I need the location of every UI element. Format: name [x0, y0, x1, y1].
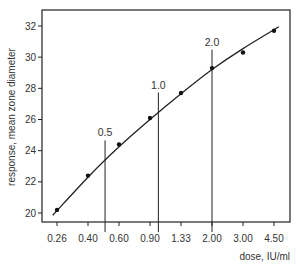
- data-point: [179, 91, 183, 95]
- y-axis-title: response, mean zone diameter: [6, 47, 17, 186]
- x-tick-label: 2.00: [202, 233, 222, 244]
- reference-line-label: 1.0: [151, 79, 166, 91]
- x-tick-label: 1.33: [171, 233, 191, 244]
- reference-line-label: 2.0: [205, 36, 220, 48]
- data-point: [272, 28, 276, 32]
- x-tick-label: 0.90: [140, 233, 160, 244]
- x-tick-label: 3.00: [233, 233, 253, 244]
- reference-line-label: 0.5: [98, 126, 113, 138]
- x-axis: 0.260.400.600.901.332.003.004.50: [47, 222, 284, 244]
- reference-lines: 0.51.02.0: [98, 36, 220, 232]
- data-point: [55, 208, 59, 212]
- dose-response-chart: 20222426283032 0.260.400.600.901.332.003…: [0, 0, 298, 268]
- y-tick-label: 22: [25, 176, 37, 187]
- y-tick-label: 30: [25, 52, 37, 63]
- x-tick-label: 0.26: [47, 233, 67, 244]
- data-point: [241, 50, 245, 54]
- x-tick-label: 4.50: [264, 233, 284, 244]
- data-point: [210, 66, 214, 70]
- data-point: [117, 142, 121, 146]
- y-tick-label: 20: [25, 208, 37, 219]
- fitted-curve: [53, 27, 279, 216]
- y-axis: 20222426283032: [25, 21, 42, 219]
- y-tick-label: 26: [25, 114, 37, 125]
- x-tick-label: 0.40: [78, 233, 98, 244]
- data-points: [55, 28, 276, 212]
- x-tick-label: 0.60: [109, 233, 129, 244]
- data-point: [86, 173, 90, 177]
- data-point: [148, 116, 152, 120]
- y-tick-label: 24: [25, 145, 37, 156]
- y-tick-label: 32: [25, 21, 37, 32]
- y-tick-label: 28: [25, 83, 37, 94]
- x-axis-title: dose, IU/ml: [239, 251, 290, 262]
